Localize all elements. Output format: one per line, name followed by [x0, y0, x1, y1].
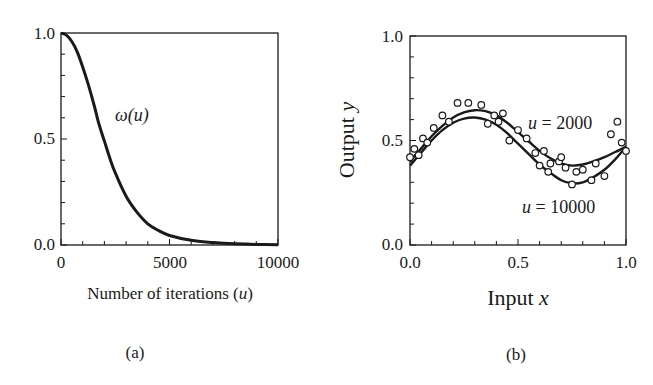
- sample-point: [545, 169, 552, 176]
- chart-panel-a: 0.0 0.5 1.0 0 5000 10000 ω(u) Number of …: [34, 24, 300, 362]
- sample-point: [523, 135, 530, 142]
- sample-point: [532, 150, 539, 157]
- figure: 0.0 0.5 1.0 0 5000 10000 ω(u) Number of …: [0, 0, 653, 385]
- u2000-annotation: u = 2000: [528, 113, 592, 133]
- sample-point: [608, 131, 615, 138]
- x-axis-title-a: Number of iterations (u): [87, 284, 253, 303]
- sample-point: [562, 164, 569, 171]
- plot-frame-a: [61, 33, 278, 245]
- sample-point: [623, 148, 630, 155]
- sample-point: [446, 118, 453, 125]
- y-tick-label-b-0: 0.0: [382, 235, 403, 254]
- sample-point: [411, 146, 418, 153]
- sample-point: [484, 120, 491, 127]
- x-tick-label-b-1: 0.5: [507, 253, 528, 272]
- sample-point: [573, 169, 580, 176]
- sample-point: [515, 127, 522, 134]
- sample-point: [491, 112, 498, 119]
- y-tick-label-a-1: 0.5: [34, 129, 55, 148]
- sample-point: [439, 112, 446, 119]
- sample-point: [580, 166, 587, 173]
- sample-point: [407, 154, 414, 161]
- x-tick-label-b-2: 1.0: [615, 253, 636, 272]
- sample-point: [495, 118, 502, 125]
- sample-point: [506, 137, 513, 144]
- y-tick-label-a-0: 0.0: [34, 235, 55, 254]
- sample-point: [415, 152, 422, 159]
- x-tick-label-b-0: 0.0: [399, 253, 420, 272]
- sample-point: [618, 139, 625, 146]
- sample-point: [569, 181, 576, 188]
- y-tick-label-a-2: 1.0: [34, 24, 55, 43]
- u10000-annotation: u = 10000: [522, 197, 595, 217]
- sample-point: [478, 102, 485, 109]
- sample-point: [430, 125, 437, 132]
- sample-point: [536, 162, 543, 169]
- sample-point: [592, 160, 599, 167]
- sample-point: [454, 100, 461, 107]
- panel-label-b: (b): [506, 345, 526, 364]
- sample-point: [558, 154, 565, 161]
- x-tick-label-a-0: 0: [57, 253, 66, 272]
- tick-marks-a: [61, 33, 278, 245]
- x-axis-title-b: Input x: [487, 285, 549, 310]
- sample-point: [547, 160, 554, 167]
- chart-panel-b: 0.0 0.5 1.0 0.0 0.5 1.0 u = 2000 u = 100…: [334, 27, 637, 364]
- sample-point: [601, 173, 608, 180]
- y-tick-label-b-1: 0.5: [382, 131, 403, 150]
- sample-point: [500, 110, 507, 117]
- omega-curve: [61, 33, 278, 245]
- sample-point: [614, 118, 621, 125]
- panel-label-a: (a): [126, 343, 145, 362]
- sample-point: [588, 177, 595, 184]
- y-axis-title-b: Output y: [334, 102, 359, 179]
- x-tick-label-a-2: 10000: [257, 253, 300, 272]
- y-tick-label-b-2: 1.0: [382, 27, 403, 46]
- omega-annotation: ω(u): [115, 105, 149, 126]
- sample-point: [424, 139, 431, 146]
- sample-point: [541, 148, 548, 155]
- x-tick-label-a-1: 5000: [153, 253, 187, 272]
- sample-point: [465, 100, 472, 107]
